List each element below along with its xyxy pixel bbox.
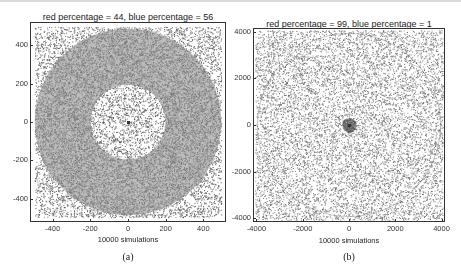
y-tick-label: -200 xyxy=(0,155,28,164)
x-tick-mark xyxy=(166,219,167,222)
caption-b: (b) xyxy=(253,251,445,262)
plot-a-xlabel: 10000 simulations xyxy=(30,235,226,244)
x-tick-mark xyxy=(128,219,129,222)
plot-b-scatter xyxy=(254,29,444,221)
x-tick-label: -2000 xyxy=(288,224,318,233)
y-tick-label: 4000 xyxy=(221,27,251,36)
y-tick-mark xyxy=(30,122,33,123)
x-tick-mark xyxy=(303,219,304,222)
x-tick-mark xyxy=(53,219,54,222)
y-tick-mark xyxy=(30,160,33,161)
x-tick-label: -400 xyxy=(38,224,68,233)
y-tick-mark xyxy=(253,172,256,173)
y-tick-mark xyxy=(253,78,256,79)
page-top-border xyxy=(0,0,461,2)
x-tick-mark xyxy=(395,219,396,222)
y-tick-mark xyxy=(30,45,33,46)
y-tick-label: 0 xyxy=(221,120,251,129)
y-tick-label: 0 xyxy=(0,117,28,126)
y-tick-mark xyxy=(253,125,256,126)
y-tick-label: 400 xyxy=(0,40,28,49)
y-tick-mark xyxy=(30,199,33,200)
x-tick-mark xyxy=(349,219,350,222)
y-tick-label: 200 xyxy=(0,79,28,88)
x-tick-label: 0 xyxy=(334,224,364,233)
x-tick-label: 200 xyxy=(151,224,181,233)
y-tick-label: -2000 xyxy=(221,167,251,176)
x-tick-label: 4000 xyxy=(427,224,457,233)
y-tick-mark xyxy=(253,32,256,33)
y-tick-label: -4000 xyxy=(221,213,251,222)
plot-b-area xyxy=(253,28,445,222)
x-tick-label: 400 xyxy=(188,224,218,233)
x-tick-mark xyxy=(203,219,204,222)
y-tick-mark xyxy=(30,84,33,85)
y-tick-label: 2000 xyxy=(221,73,251,82)
plot-b-xlabel: 10000 simulations xyxy=(253,236,445,245)
y-tick-mark xyxy=(253,218,256,219)
x-tick-label: -4000 xyxy=(241,224,271,233)
x-tick-label: -200 xyxy=(75,224,105,233)
caption-a: (a) xyxy=(30,251,226,262)
plot-a-scatter xyxy=(31,23,225,221)
plot-a-title: red percentage = 44, blue percentage = 5… xyxy=(30,12,226,22)
x-tick-mark xyxy=(442,219,443,222)
x-tick-label: 0 xyxy=(113,224,143,233)
x-tick-mark xyxy=(90,219,91,222)
x-tick-label: 2000 xyxy=(380,224,410,233)
x-tick-mark xyxy=(256,219,257,222)
y-tick-label: -400 xyxy=(0,194,28,203)
plot-a-area xyxy=(30,22,226,222)
